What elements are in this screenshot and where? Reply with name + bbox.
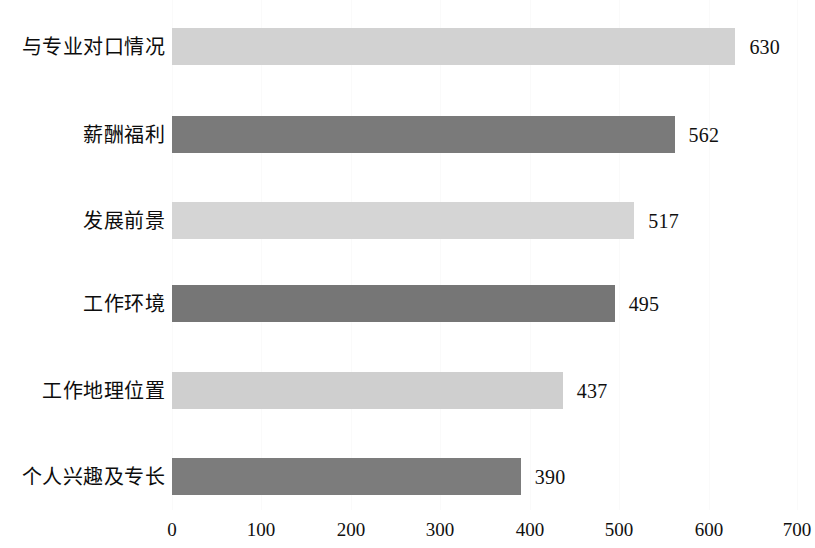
category-label: 个人兴趣及专长 (22, 458, 166, 495)
x-tick-label: 100 (247, 520, 276, 539)
category-label: 工作环境 (83, 285, 165, 322)
x-tick-label: 300 (426, 520, 455, 539)
x-tick-label: 0 (167, 520, 177, 539)
bar (172, 285, 615, 322)
bar-row: 517 (172, 202, 798, 239)
x-tick-label: 200 (337, 520, 366, 539)
bar-row: 495 (172, 285, 798, 322)
bar-value-label: 562 (689, 125, 720, 145)
bar (172, 202, 634, 239)
bar-value-label: 495 (629, 294, 660, 314)
bar (172, 28, 735, 65)
category-label: 薪酬福利 (83, 116, 165, 153)
bar (172, 372, 563, 409)
bar-row: 630 (172, 28, 798, 65)
x-tick-label: 700 (783, 520, 812, 539)
category-label: 工作地理位置 (42, 372, 165, 409)
category-label: 发展前景 (83, 202, 165, 239)
bar-rows: 630 562 517 495 437 390 (172, 0, 798, 510)
bar-value-label: 390 (535, 467, 566, 487)
bar-value-label: 630 (749, 37, 780, 57)
x-axis: 0 100 200 300 400 500 600 700 (172, 510, 798, 548)
bar (172, 458, 521, 495)
bar (172, 116, 675, 153)
x-tick-label: 600 (695, 520, 724, 539)
category-label: 与专业对口情况 (22, 28, 166, 65)
bar-row: 390 (172, 458, 798, 495)
bar-row: 437 (172, 372, 798, 409)
bar-row: 562 (172, 116, 798, 153)
bar-value-label: 437 (577, 381, 608, 401)
plot-area: 630 562 517 495 437 390 (172, 0, 798, 510)
bar-value-label: 517 (648, 211, 679, 231)
x-tick-label: 400 (516, 520, 545, 539)
bar-chart: 与专业对口情况 薪酬福利 发展前景 工作环境 工作地理位置 个人兴趣及专长 63… (0, 0, 815, 548)
x-tick-label: 500 (605, 520, 634, 539)
category-axis-labels: 与专业对口情况 薪酬福利 发展前景 工作环境 工作地理位置 个人兴趣及专长 (0, 0, 165, 510)
